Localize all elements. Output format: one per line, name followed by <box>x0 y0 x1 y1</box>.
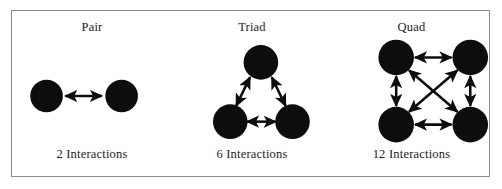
node-triad-bottom-right <box>275 104 310 139</box>
node-triad-bottom-left <box>213 104 248 139</box>
node-quad-top-right <box>453 40 489 76</box>
panel-triad-caption: 6 Interactions <box>172 147 332 162</box>
node-quad-bottom-left <box>378 107 414 143</box>
node-triad-top <box>244 45 279 80</box>
node-pair-1 <box>30 80 63 113</box>
diagram-frame: Pair 2 Interactions Triad <box>11 10 490 177</box>
panel-quad: Quad <box>332 11 491 176</box>
panel-pair-caption: 2 Interactions <box>12 147 172 162</box>
node-quad-top-left <box>378 40 414 76</box>
node-quad-bottom-right <box>453 107 489 143</box>
node-pair-2 <box>105 80 138 113</box>
edge-triad-top-right <box>272 77 286 106</box>
edge-triad-top-left <box>236 77 250 106</box>
panel-triad: Triad 6 Interactions <box>172 11 332 176</box>
panel-pair: Pair 2 Interactions <box>12 11 172 176</box>
panel-quad-caption: 12 Interactions <box>332 147 491 162</box>
interaction-diagram: Pair 2 Interactions Triad <box>0 0 502 189</box>
